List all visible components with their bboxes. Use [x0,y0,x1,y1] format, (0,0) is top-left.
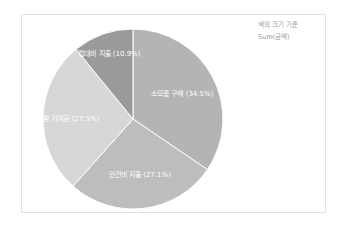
legend: 색의 크기 기준 Sum(금액) [258,19,298,43]
legend-title: 색의 크기 기준 [258,19,298,31]
legend-measure: Sum(금액) [258,31,298,43]
slice-label: 순환 기여금 (27.5%) [37,113,99,123]
slice-label: 인건비 지출 (27.1%) [109,169,171,179]
slice-label: 소모품 구매 (34.5%) [151,88,213,98]
slice-label: 접대비 지출 (10.9%) [78,48,140,58]
